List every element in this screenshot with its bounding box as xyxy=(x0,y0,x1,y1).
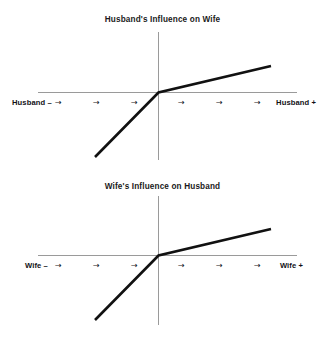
axis-arrow-right-2: → xyxy=(216,99,223,107)
axis-arrow-right-2: → xyxy=(216,262,223,270)
axis-arrow-left-2: → xyxy=(93,99,100,107)
x-axis-label-positive: Wife + xyxy=(280,261,303,270)
x-axis-label-negative: Wife – xyxy=(25,261,48,270)
influence-curve xyxy=(95,66,271,157)
axis-arrow-right-3: → xyxy=(254,262,261,270)
chart-panel-wife-influence: Wife's Influence on Husband Wife – → → →… xyxy=(0,170,325,337)
axis-arrow-right-1: → xyxy=(178,262,185,270)
influence-functions-figure: Husband's Influence on Wife Husband – → … xyxy=(0,0,325,337)
chart-plot-wife-influence xyxy=(0,170,325,337)
chart-panel-husband-influence: Husband's Influence on Wife Husband – → … xyxy=(0,0,325,170)
x-axis-label-negative: Husband – xyxy=(12,98,52,107)
x-axis-label-positive: Husband + xyxy=(276,98,316,107)
axis-arrow-right-3: → xyxy=(254,99,261,107)
axis-arrow-left-3: → xyxy=(131,262,138,270)
axis-arrow-left-1: → xyxy=(55,99,62,107)
axis-arrow-left-1: → xyxy=(55,262,62,270)
influence-curve xyxy=(95,229,271,320)
axis-arrow-left-2: → xyxy=(93,262,100,270)
axis-arrow-right-1: → xyxy=(178,99,185,107)
axis-arrow-left-3: → xyxy=(131,99,138,107)
chart-plot-husband-influence xyxy=(0,0,325,170)
